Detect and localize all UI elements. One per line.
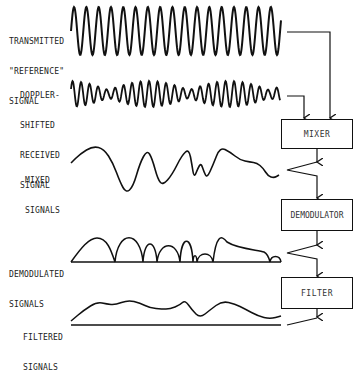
label-line: FILTERED (23, 333, 63, 343)
filter-label: FILTER (301, 289, 333, 298)
label-line: MIXED (25, 176, 60, 186)
filter-block: FILTER (281, 277, 353, 309)
label-line: SIGNALS (25, 206, 60, 216)
mixer-to-demodulator-zigzag (287, 162, 317, 198)
demodulated-signals-waveform (71, 238, 281, 262)
doppler-shifted-waveform (71, 81, 280, 107)
transmitted-to-mixer-connector (287, 32, 330, 118)
transmitted-reference-waveform (71, 7, 281, 55)
label-demodulated-signals: DEMODULATED SIGNALS (9, 250, 64, 320)
label-line: SHIFTED (20, 121, 60, 131)
label-line: DEMODULATED (9, 270, 64, 280)
demodulator-block: DEMODULATOR (281, 199, 353, 231)
mixed-signals-waveform (71, 147, 279, 191)
label-mixed-signals: MIXED SIGNALS (25, 156, 60, 226)
demodulator-to-filter-zigzag (287, 245, 317, 276)
filtered-signals-waveform (71, 301, 281, 321)
label-line: TRANSMITTED (9, 37, 64, 47)
label-line: DOPPLER- (20, 91, 60, 101)
mixer-block: MIXER (281, 119, 353, 149)
mixer-label: MIXER (304, 130, 331, 139)
doppler-to-mixer-connector (287, 96, 304, 118)
label-filtered-signals: FILTERED SIGNALS (23, 313, 63, 374)
demodulator-label: DEMODULATOR (291, 211, 344, 220)
filter-output-tail (287, 318, 317, 325)
label-line: SIGNALS (9, 300, 64, 310)
label-line: SIGNALS (23, 363, 63, 373)
